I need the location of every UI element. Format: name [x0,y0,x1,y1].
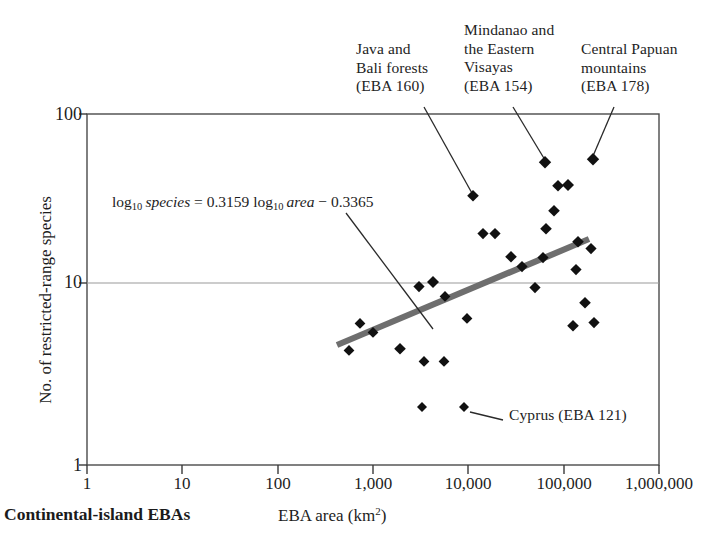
x-axis-label-text: EBA area (km [278,506,375,525]
equation-tail: − 0.3365 [314,193,373,210]
x-tick-label-100: 100 [265,474,291,494]
data-point [570,264,581,275]
data-point [529,282,540,293]
figure-caption: Continental-island EBAs [4,504,190,525]
equation-sub1: 10 [132,201,143,212]
x-tick-label-10: 10 [174,474,191,494]
x-tick-label-1000000: 1,000,000 [625,474,693,494]
data-point [355,318,366,329]
data-point [462,313,473,324]
equation-operator: = 0.3159 [190,193,253,210]
data-point [579,297,591,309]
equation-log2: log [253,193,273,210]
data-point [417,402,427,412]
data-point [567,320,579,332]
x-axis-ticks [87,465,659,474]
data-point [419,356,430,367]
data-point [394,343,406,355]
equation-area: area [287,193,315,210]
annotation-mindanao: Mindanao and the Eastern Visayas (EBA 15… [464,21,554,95]
data-point [552,180,564,192]
data-point [548,205,560,217]
equation-sub2: 10 [273,201,284,212]
y-axis-label: No. of restricted-range species [36,150,56,450]
chart-figure: Java and Bali forests (EBA 160) Mindanao… [0,0,709,544]
leader-line-mindanao [513,107,545,160]
data-point [588,317,599,328]
x-tick-label-1: 1 [83,474,92,494]
y-tick-label-100: 100 [30,104,82,125]
annotation-java-bali: Java and Bali forests (EBA 160) [356,40,428,96]
data-point [427,276,439,288]
leader-lines [346,107,614,420]
data-point [477,228,488,239]
data-point [489,228,500,239]
annotation-cyprus: Cyprus (EBA 121) [509,406,627,425]
x-tick-label-10000: 10,000 [445,474,492,494]
leader-line-java [424,107,473,195]
data-point [439,356,450,367]
data-point [505,251,517,263]
y-tick-label-1: 1 [30,455,82,476]
data-point [585,243,596,254]
data-point [539,156,551,168]
equation-species: species [145,193,190,210]
data-point [459,402,469,412]
data-point [467,190,479,202]
data-point [344,345,355,356]
x-tick-label-100000: 100,000 [536,474,591,494]
equation-log1: log [112,193,132,210]
data-point [562,179,574,191]
leader-line-cyprus [470,412,503,420]
leader-line-equation [346,213,433,329]
data-point [587,153,599,165]
x-axis-label: EBA area (km2) [278,505,386,526]
annotation-central-papuan: Central Papuan mountains (EBA 178) [581,40,678,96]
regression-equation: log10 species = 0.3159 log10 area − 0.33… [112,193,374,212]
x-axis-label-close: ) [381,506,387,525]
x-tick-label-1000: 1,000 [354,474,392,494]
data-point [540,223,552,235]
